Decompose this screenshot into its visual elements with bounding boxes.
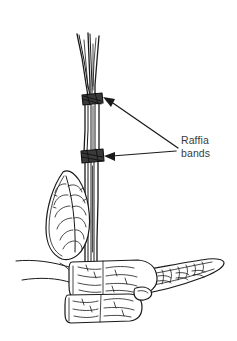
lower-raffia-band — [81, 149, 104, 163]
label-line-1: Raffia — [181, 134, 209, 146]
upper-raffia-band — [82, 93, 103, 105]
cut-lower-leaf — [65, 294, 142, 323]
lower-leaf-outline — [65, 294, 142, 323]
leaf-fragment-right — [134, 287, 152, 300]
raffia-bands-illustration: Raffia bands — [0, 0, 237, 341]
illustration-canvas: Raffia bands — [0, 0, 237, 341]
label-line-2: bands — [181, 147, 210, 159]
leaf-fragment-outline — [134, 287, 152, 300]
